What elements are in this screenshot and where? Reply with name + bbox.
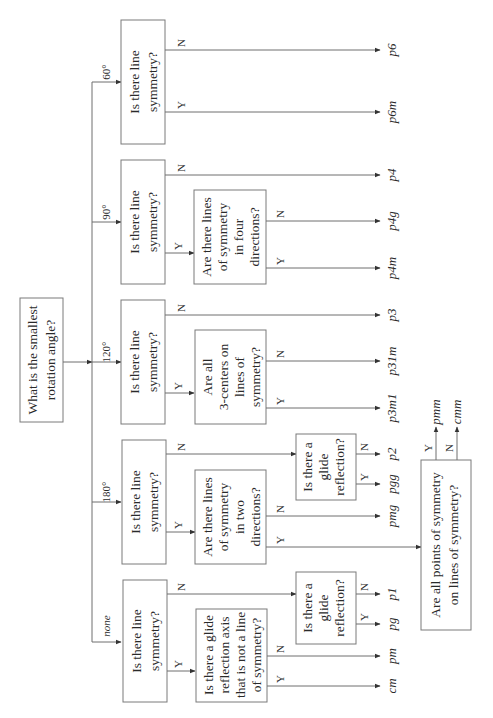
svg-text:symmetry?: symmetry? — [248, 347, 263, 407]
svg-text:Are all points of symmetry: Are all points of symmetry — [428, 472, 443, 618]
svg-text:Y: Y — [274, 257, 286, 265]
svg-text:Is there line: Is there line — [128, 470, 143, 534]
svg-text:reflection?: reflection? — [332, 579, 347, 637]
node-180-line-symmetry: Is there line symmetry? — [122, 440, 166, 564]
svg-text:Are there lines: Are there lines — [200, 477, 215, 556]
node-none-line-symmetry: Is there line symmetry? — [123, 580, 167, 702]
result-cm: cm — [384, 678, 399, 693]
svg-text:N: N — [274, 505, 286, 513]
result-p2: p2 — [384, 447, 399, 462]
node-none-glide: Is there a glide reflection? — [296, 572, 356, 644]
node-180-two-directions: Are there lines of symmetry in two direc… — [195, 470, 266, 564]
svg-text:N: N — [358, 443, 370, 451]
result-p31m: p31m — [384, 347, 399, 377]
svg-text:Y: Y — [172, 521, 184, 529]
svg-text:of symmetry: of symmetry — [215, 202, 230, 271]
node-120-three-centers: Are all 3-centers on lines of symmetry? — [195, 330, 266, 424]
angle-label-180: 180° — [100, 482, 112, 503]
result-pm: pm — [384, 648, 399, 665]
svg-text:Is there a: Is there a — [300, 442, 315, 491]
result-pgg: pgg — [384, 474, 399, 495]
svg-text:N: N — [175, 583, 187, 591]
svg-text:Is there a: Is there a — [300, 583, 315, 632]
angle-label-90: 90° — [100, 204, 112, 219]
svg-text:N: N — [175, 39, 187, 47]
svg-text:that is not a line: that is not a line — [233, 612, 248, 698]
node-90-four-directions: Are there lines of symmetry in four dire… — [194, 190, 266, 284]
result-pg: pg — [384, 617, 399, 632]
svg-text:in four: in four — [231, 218, 246, 255]
node-none-glide-axis: Is there a glide reflection axis that is… — [196, 609, 267, 702]
angle-label-60: 60° — [100, 64, 112, 79]
root-question-line2: rotation angle? — [43, 320, 58, 401]
svg-text:N: N — [175, 304, 187, 312]
svg-text:lines of: lines of — [232, 356, 247, 397]
svg-text:reflection axis: reflection axis — [217, 617, 232, 694]
svg-text:N: N — [175, 443, 187, 451]
svg-text:in two: in two — [232, 500, 247, 534]
svg-text:of symmetry?: of symmetry? — [249, 618, 264, 693]
svg-text:N: N — [358, 583, 370, 591]
svg-text:3-centers on: 3-centers on — [216, 344, 231, 411]
svg-text:symmetry?: symmetry? — [145, 332, 160, 392]
svg-text:glide: glide — [316, 453, 331, 480]
svg-text:Y: Y — [358, 613, 370, 621]
result-p4g: p4g — [384, 211, 399, 232]
result-p6: p6 — [384, 43, 399, 58]
node-90-line-symmetry: Is there line symmetry? — [121, 160, 165, 284]
node-60-line-symmetry: Is there line symmetry? — [121, 20, 165, 144]
svg-text:N: N — [274, 210, 286, 218]
node-180-points-on-lines: Are all points of symmetry on lines of s… — [421, 460, 471, 630]
svg-text:Y: Y — [422, 444, 434, 452]
node-180-glide: Is there a glide reflection? — [296, 434, 356, 500]
svg-text:Is there line: Is there line — [127, 190, 142, 254]
result-p3: p3 — [384, 308, 399, 323]
svg-text:Are all: Are all — [200, 358, 215, 395]
svg-text:symmetry?: symmetry? — [147, 611, 162, 671]
root-question-line1: What is the smallest — [25, 305, 40, 414]
svg-text:Y: Y — [274, 675, 286, 683]
result-p1: p1 — [384, 588, 399, 602]
result-pmm: pmm — [428, 399, 443, 425]
svg-text:Are there lines: Are there lines — [199, 197, 214, 276]
result-p4: p4 — [384, 168, 399, 183]
svg-text:N: N — [274, 645, 286, 653]
svg-text:reflection?: reflection? — [332, 438, 347, 496]
result-p3m1: p3m1 — [384, 394, 399, 424]
angle-label-120: 120° — [100, 342, 112, 363]
svg-text:N: N — [443, 444, 455, 452]
svg-text:N: N — [175, 164, 187, 172]
svg-text:symmetry?: symmetry? — [145, 192, 160, 252]
svg-text:Y: Y — [274, 397, 286, 405]
svg-text:Is there line: Is there line — [129, 609, 144, 673]
svg-text:on lines of symmetry?: on lines of symmetry? — [446, 485, 461, 605]
svg-text:Is there line: Is there line — [127, 50, 142, 114]
result-pmg: pmg — [384, 504, 399, 528]
root-node: What is the smallest rotation angle? — [20, 298, 63, 422]
svg-text:Y: Y — [172, 660, 184, 668]
wallpaper-group-flowchart: What is the smallest rotation angle? 60°… — [0, 0, 493, 718]
angle-label-none: none — [100, 615, 112, 637]
result-p6m: p6m — [384, 101, 399, 124]
svg-text:glide: glide — [316, 594, 331, 621]
svg-text:symmetry?: symmetry? — [145, 52, 160, 112]
svg-text:symmetry?: symmetry? — [146, 472, 161, 532]
svg-text:directions?: directions? — [248, 487, 263, 546]
svg-text:Y: Y — [172, 242, 184, 250]
result-cmm: cmm — [449, 400, 464, 425]
svg-text:N: N — [274, 350, 286, 358]
svg-text:directions?: directions? — [247, 207, 262, 266]
svg-text:Y: Y — [274, 536, 286, 544]
svg-text:Is there line: Is there line — [127, 330, 142, 394]
svg-text:Is there a glide: Is there a glide — [201, 615, 216, 695]
svg-text:of symmetry: of symmetry — [216, 482, 231, 551]
result-p4m: p4m — [384, 257, 399, 280]
svg-text:Y: Y — [358, 473, 370, 481]
svg-text:Y: Y — [172, 382, 184, 390]
svg-text:Y: Y — [175, 101, 187, 109]
node-120-line-symmetry: Is there line symmetry? — [121, 300, 165, 424]
